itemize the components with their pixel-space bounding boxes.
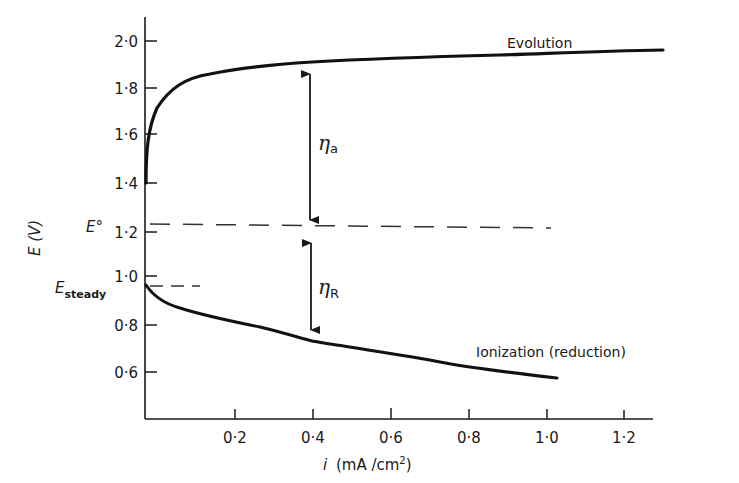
y-tick-label: 2·0 bbox=[114, 33, 138, 51]
x-tick-label: 0·4 bbox=[301, 429, 325, 447]
y-tick-label: 1·4 bbox=[114, 175, 138, 193]
y-ticks bbox=[145, 41, 157, 372]
eta-a-label: ηa bbox=[318, 131, 338, 156]
y-tick-label: 1·0 bbox=[114, 268, 138, 286]
eta-r-label: ηR bbox=[318, 275, 339, 301]
x-tick-label: 1·2 bbox=[612, 429, 636, 447]
y-axis-title: E (V) bbox=[26, 220, 44, 256]
evolution-label: Evolution bbox=[507, 35, 572, 51]
polarization-chart: 2·0 1·8 1·6 1·4 1·2 1·0 0·8 0·6 0·2 0·4 … bbox=[0, 0, 739, 483]
x-tick-label: 0·6 bbox=[379, 429, 403, 447]
y-tick-labels: 2·0 1·8 1·6 1·4 1·2 1·0 0·8 0·6 bbox=[114, 33, 138, 382]
e-standard-label: E° bbox=[86, 218, 103, 236]
x-tick-label: 0·2 bbox=[223, 429, 247, 447]
y-tick-label: 0·8 bbox=[114, 317, 138, 335]
ionization-label: Ionization (reduction) bbox=[476, 344, 626, 360]
y-tick-label: 1·8 bbox=[114, 80, 138, 98]
x-tick-labels: 0·2 0·4 0·6 0·8 1·0 1·2 bbox=[223, 429, 636, 447]
y-tick-label: 0·6 bbox=[114, 364, 138, 382]
y-tick-label: 1·2 bbox=[114, 224, 138, 242]
e-steady-label: Esteady bbox=[55, 279, 106, 301]
ionization-curve bbox=[146, 285, 557, 378]
x-tick-label: 0·8 bbox=[457, 429, 481, 447]
e-standard-dashed-line bbox=[150, 224, 551, 228]
x-tick-label: 1·0 bbox=[535, 429, 559, 447]
x-ticks bbox=[235, 408, 624, 419]
evolution-curve bbox=[146, 50, 663, 183]
x-axis-title: i (mA /cm2) bbox=[323, 455, 412, 474]
y-tick-label: 1·6 bbox=[114, 126, 138, 144]
